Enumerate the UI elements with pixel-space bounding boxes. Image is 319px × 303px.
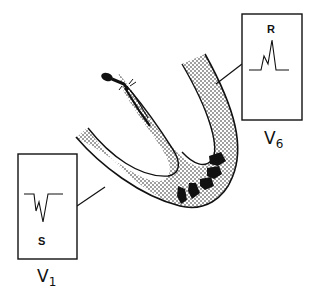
lead-v1-label: V1	[37, 268, 56, 288]
lead-v6-wave-label: R	[267, 23, 275, 35]
lead-v1-connector	[77, 187, 105, 206]
ventricle-wall	[76, 54, 238, 207]
lead-v1-label-main: V	[37, 266, 49, 286]
lead-v6-connector	[216, 64, 242, 84]
lead-v6-label-main: V	[264, 128, 276, 148]
ecg-ventricle-diagram: R S	[0, 0, 319, 303]
av-node	[100, 71, 114, 83]
lead-v6-label-sub: 6	[276, 137, 284, 151]
lead-v6-label: V6	[264, 130, 283, 150]
myocardium	[76, 54, 238, 207]
lead-v1-label-sub: 1	[49, 275, 57, 289]
lead-v1-wave-label: S	[38, 235, 45, 247]
lead-v1-box	[18, 154, 77, 259]
bundle-branch-left	[125, 88, 150, 126]
lead-v1: S	[18, 154, 105, 259]
